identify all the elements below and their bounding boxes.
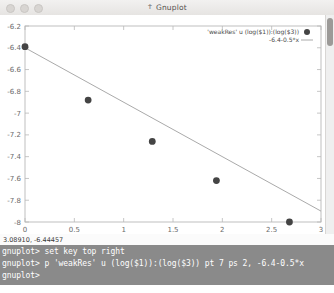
y-axis-label: -8 bbox=[14, 219, 21, 227]
window-footer bbox=[0, 285, 334, 293]
y-axis-label: -6.6 bbox=[7, 66, 21, 74]
legend-label-series: 'weakRes' u (log($1)):(log($3)) bbox=[207, 28, 299, 36]
window-titlebar: ✝ Gnuplot bbox=[0, 0, 334, 16]
plot-border bbox=[25, 26, 321, 222]
terminal-prompt[interactable]: gnuplot> bbox=[2, 270, 334, 282]
scatter-plot[interactable]: 00.511.522.53-6.2-6.4-6.6-6.8-7-7.2-7.4-… bbox=[0, 15, 334, 234]
vertical-scrollbar-track[interactable] bbox=[325, 15, 334, 234]
x-axis-label: 3 bbox=[319, 226, 323, 234]
data-point[interactable] bbox=[149, 138, 156, 145]
y-axis-label: -7.6 bbox=[7, 175, 21, 183]
x-axis-label: 1 bbox=[121, 226, 125, 234]
gnuplot-terminal[interactable]: gnuplot> set key top right gnuplot> p 'w… bbox=[0, 245, 334, 285]
y-axis-label: -6.2 bbox=[7, 23, 21, 31]
gnuplot-window: ✝ Gnuplot 00.511.522.53-6.2-6.4-6.6-6.8-… bbox=[0, 0, 334, 293]
data-point[interactable] bbox=[22, 43, 29, 50]
terminal-line: gnuplot> set key top right bbox=[2, 246, 334, 258]
data-point[interactable] bbox=[213, 177, 220, 184]
coordinate-readout: 3.08910, -6.44457 bbox=[0, 236, 63, 244]
terminal-line: gnuplot> p 'weakRes' u (log($1)):(log($3… bbox=[2, 258, 334, 270]
gnuplot-icon: ✝ bbox=[147, 4, 153, 11]
window-title-group: ✝ Gnuplot bbox=[0, 0, 334, 15]
vertical-scrollbar-thumb[interactable] bbox=[327, 18, 333, 46]
window-title: Gnuplot bbox=[156, 3, 187, 12]
y-axis-label: -6.4 bbox=[7, 44, 21, 52]
x-axis-label: 0.5 bbox=[69, 226, 80, 234]
y-axis-label: -7.2 bbox=[7, 131, 21, 139]
plot-canvas[interactable]: 00.511.522.53-6.2-6.4-6.6-6.8-7-7.2-7.4-… bbox=[0, 15, 334, 234]
data-point[interactable] bbox=[286, 219, 293, 226]
x-axis-label: 2.5 bbox=[266, 226, 277, 234]
x-axis-label: 2 bbox=[220, 226, 224, 234]
y-axis-label: -7 bbox=[14, 110, 21, 118]
y-axis-label: -7.4 bbox=[7, 153, 21, 161]
legend-marker-series bbox=[304, 29, 310, 35]
x-axis-label: 0 bbox=[23, 226, 27, 234]
fit-line bbox=[25, 48, 321, 211]
data-point[interactable] bbox=[85, 97, 92, 104]
y-axis-label: -6.8 bbox=[7, 88, 21, 96]
y-axis-label: -7.8 bbox=[7, 197, 21, 205]
x-axis-label: 1.5 bbox=[167, 226, 178, 234]
legend-label-fit: -6.4-0.5*x bbox=[269, 36, 299, 43]
